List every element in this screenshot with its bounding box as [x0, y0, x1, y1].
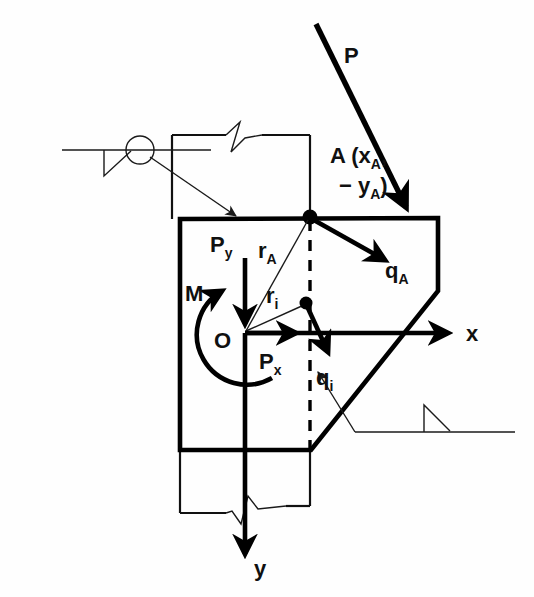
engineering-diagram: P A (xA, − yA) qA rA ri [0, 0, 534, 597]
axis-x-label: x [466, 321, 479, 346]
force-Py-label: Py [210, 232, 233, 261]
radius-ri-sub: i [275, 296, 279, 312]
force-qA-vector [312, 219, 385, 260]
point-A-label-line2: − yA) [339, 173, 388, 202]
force-Px-sub: x [274, 362, 282, 378]
section-leader-top [150, 157, 236, 216]
axis-y-label: y [254, 556, 267, 581]
section-cut-top [62, 136, 236, 216]
radius-rA-sub: A [267, 251, 277, 267]
load-P-label: P [344, 43, 359, 68]
force-Px-text: P [259, 349, 274, 374]
force-qA-text: q [385, 258, 398, 283]
point-A-sub-yA: A [370, 186, 380, 202]
point-A-sub-A: A [371, 156, 381, 172]
figure-canvas: P A (xA, − yA) qA rA ri [0, 0, 534, 597]
force-qi-text: q [316, 365, 329, 390]
point-A-comma: , [381, 143, 387, 168]
moment-M-label: M [185, 281, 203, 306]
radius-ri-label: ri [266, 283, 278, 312]
origin-O-label: O [214, 328, 231, 353]
force-Py-sub: y [225, 245, 233, 261]
section-triangle-bottom [424, 405, 450, 432]
force-qA-label: qA [385, 258, 409, 287]
point-A-paren: ) [380, 173, 387, 198]
radius-rA-line [246, 220, 308, 331]
break-symbol-bottom [226, 496, 286, 524]
force-qA-sub: A [398, 271, 408, 287]
force-qi-sub: i [329, 378, 333, 394]
point-A-text-negy: − y [339, 173, 371, 198]
force-Px-label: Px [259, 349, 282, 378]
force-qA-arrow [312, 219, 385, 260]
force-qi-label: qi [316, 365, 333, 394]
radius-rA-label: rA [258, 238, 277, 267]
force-Py-text: P [210, 232, 225, 257]
break-symbol-top [226, 122, 262, 152]
column-member [172, 122, 310, 524]
point-A-text-A: A (x [330, 143, 372, 168]
